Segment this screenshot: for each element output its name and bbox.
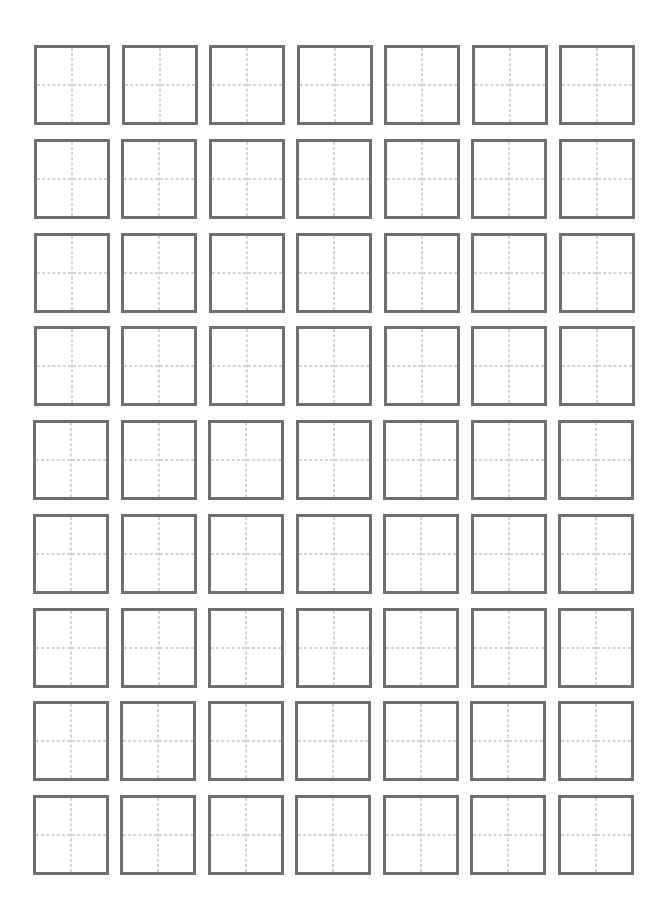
horizontal-guide-line — [212, 273, 282, 274]
horizontal-guide-line — [298, 741, 368, 742]
practice-cell — [471, 608, 547, 688]
practice-cell — [383, 608, 459, 688]
practice-cell — [208, 608, 284, 688]
practice-cell — [34, 139, 110, 219]
practice-cell — [121, 514, 197, 594]
horizontal-guide-line — [386, 741, 456, 742]
horizontal-guide-line — [124, 273, 194, 274]
horizontal-guide-line — [474, 179, 544, 180]
practice-cell — [471, 233, 547, 313]
horizontal-guide-line — [474, 648, 544, 649]
practice-cell — [383, 701, 459, 781]
horizontal-guide-line — [125, 85, 195, 86]
practice-cell — [383, 514, 459, 594]
horizontal-guide-line — [299, 273, 369, 274]
horizontal-guide-line — [386, 835, 456, 836]
practice-cell — [296, 420, 372, 500]
practice-cell — [558, 701, 634, 781]
practice-cell — [384, 45, 460, 125]
practice-cell — [471, 514, 547, 594]
practice-cell — [120, 701, 196, 781]
practice-cell — [34, 233, 110, 313]
horizontal-guide-line — [299, 366, 369, 367]
horizontal-guide-line — [386, 554, 456, 555]
practice-cell — [470, 701, 546, 781]
horizontal-guide-line — [211, 741, 281, 742]
horizontal-guide-line — [37, 179, 107, 180]
horizontal-guide-line — [386, 460, 456, 461]
practice-cell — [33, 420, 109, 500]
practice-cell — [296, 608, 372, 688]
horizontal-guide-line — [299, 554, 369, 555]
practice-cell — [559, 326, 635, 406]
horizontal-guide-line — [562, 273, 632, 274]
practice-cell — [208, 701, 284, 781]
horizontal-guide-line — [212, 366, 282, 367]
horizontal-guide-line — [211, 835, 281, 836]
practice-cell — [558, 420, 634, 500]
practice-cell — [296, 139, 372, 219]
horizontal-guide-line — [474, 460, 544, 461]
horizontal-guide-line — [36, 460, 106, 461]
practice-cell — [34, 326, 110, 406]
practice-cell — [384, 326, 460, 406]
horizontal-guide-line — [37, 85, 107, 86]
horizontal-guide-line — [123, 835, 193, 836]
practice-cell — [558, 514, 634, 594]
horizontal-guide-line — [387, 366, 457, 367]
horizontal-guide-line — [300, 85, 370, 86]
practice-cell — [296, 233, 372, 313]
horizontal-guide-line — [298, 835, 368, 836]
horizontal-guide-line — [299, 460, 369, 461]
horizontal-guide-line — [211, 554, 281, 555]
horizontal-guide-line — [473, 741, 543, 742]
practice-cell — [33, 514, 109, 594]
horizontal-guide-line — [561, 648, 631, 649]
horizontal-guide-line — [561, 554, 631, 555]
practice-cell — [558, 608, 634, 688]
practice-cell — [296, 326, 372, 406]
practice-cell — [121, 139, 197, 219]
horizontal-guide-line — [387, 179, 457, 180]
practice-cell — [471, 326, 547, 406]
practice-cell — [384, 139, 460, 219]
horizontal-guide-line — [124, 648, 194, 649]
practice-cell — [295, 701, 371, 781]
tianzige-grid — [34, 45, 640, 877]
horizontal-guide-line — [124, 554, 194, 555]
practice-cell — [384, 233, 460, 313]
horizontal-guide-line — [299, 179, 369, 180]
practice-cell — [559, 233, 635, 313]
horizontal-guide-line — [387, 273, 457, 274]
practice-cell — [472, 45, 548, 125]
practice-cell — [121, 326, 197, 406]
horizontal-guide-line — [562, 366, 632, 367]
horizontal-guide-line — [386, 648, 456, 649]
practice-cell — [208, 514, 284, 594]
practice-cell — [209, 139, 285, 219]
practice-cell — [209, 326, 285, 406]
horizontal-guide-line — [473, 835, 543, 836]
practice-cell — [471, 139, 547, 219]
practice-cell — [470, 795, 546, 875]
horizontal-guide-line — [299, 648, 369, 649]
practice-sheet — [0, 0, 666, 918]
horizontal-guide-line — [124, 179, 194, 180]
horizontal-guide-line — [561, 741, 631, 742]
practice-cell — [208, 795, 284, 875]
horizontal-guide-line — [123, 741, 193, 742]
horizontal-guide-line — [474, 366, 544, 367]
horizontal-guide-line — [562, 179, 632, 180]
practice-cell — [383, 420, 459, 500]
practice-cell — [121, 233, 197, 313]
horizontal-guide-line — [211, 460, 281, 461]
horizontal-guide-line — [561, 835, 631, 836]
horizontal-guide-line — [124, 366, 194, 367]
horizontal-guide-line — [387, 85, 457, 86]
horizontal-guide-line — [36, 835, 106, 836]
practice-cell — [208, 420, 284, 500]
horizontal-guide-line — [474, 554, 544, 555]
practice-cell — [295, 795, 371, 875]
horizontal-guide-line — [562, 85, 632, 86]
horizontal-guide-line — [37, 273, 107, 274]
